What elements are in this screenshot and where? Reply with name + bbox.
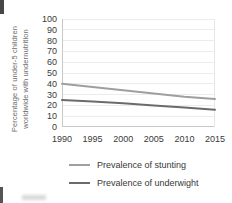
- y-tick-label: 30: [28, 90, 57, 100]
- y-tick-label: 100: [28, 14, 57, 24]
- scan-artifact-bottom-left: [0, 187, 3, 203]
- y-tick-label: 80: [28, 36, 57, 46]
- y-axis-title-line1: Percentage of under-5 children: [10, 4, 21, 154]
- y-tick-label: 0: [28, 122, 57, 132]
- legend-swatch: [69, 164, 90, 167]
- y-tick-label: 90: [28, 25, 57, 35]
- x-tick-label: 2015: [195, 134, 232, 145]
- legend: Prevalence of stuntingPrevalence of unde…: [69, 156, 199, 192]
- legend-row: Prevalence of underwight: [69, 174, 199, 192]
- legend-label: Prevalence of underwight: [97, 178, 199, 188]
- chart-figure: Percentage of under-5 children worldwide…: [0, 0, 232, 203]
- y-tick-label: 20: [28, 100, 57, 110]
- legend-swatch: [69, 182, 90, 185]
- legend-row: Prevalence of stunting: [69, 156, 199, 174]
- legend-label: Prevalence of stunting: [97, 160, 186, 170]
- y-tick-label: 70: [28, 46, 57, 56]
- y-tick-label: 50: [28, 68, 57, 78]
- y-tick-label: 10: [28, 111, 57, 121]
- scan-artifact-top-left: [0, 0, 4, 14]
- plot-area: [62, 19, 215, 127]
- y-tick-label: 60: [28, 57, 57, 67]
- scan-artifact-bottom-smudge: [22, 195, 46, 200]
- y-tick-label: 40: [28, 79, 57, 89]
